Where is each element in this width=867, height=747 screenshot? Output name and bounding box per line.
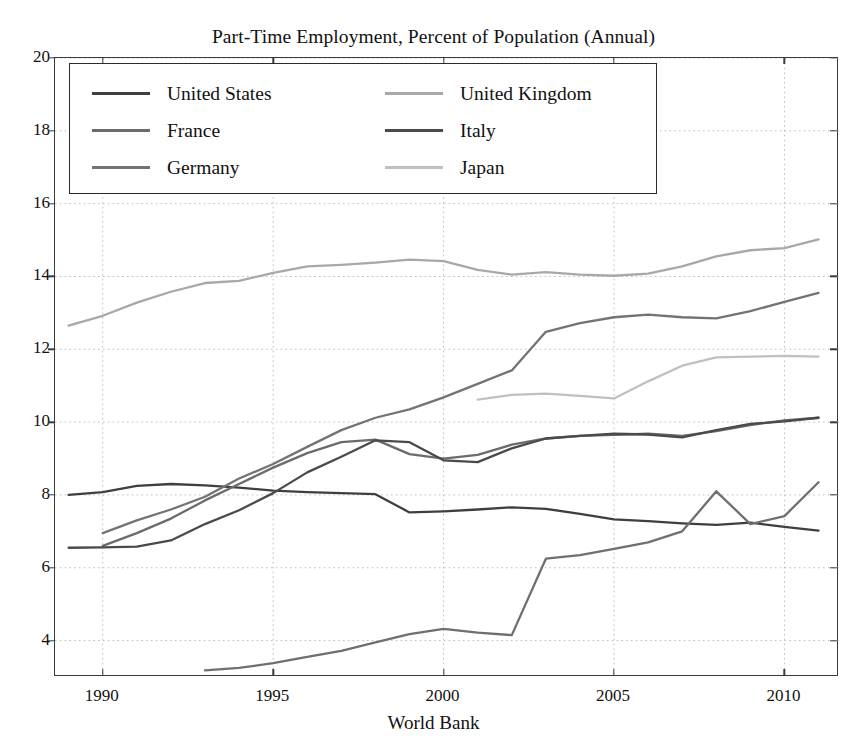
legend-swatch-icon (385, 92, 443, 95)
legend-swatch-icon (92, 166, 150, 169)
legend-entry-germany[interactable]: Germany (70, 157, 363, 179)
legend-swatch-icon (92, 92, 150, 95)
legend-label: Germany (167, 157, 240, 179)
y-axis-tick-labels: 468101214161820 (0, 0, 50, 747)
y-tick-mark (48, 130, 55, 131)
legend-label: United Kingdom (460, 83, 592, 105)
x-tick-label: 2000 (398, 686, 488, 706)
y-tick-mark (48, 57, 55, 58)
y-tick-label: 14 (6, 265, 50, 285)
y-tick-mark (48, 421, 55, 422)
y-tick-mark (48, 276, 55, 277)
legend-entry-france[interactable]: France (70, 120, 363, 142)
chart-title: Part-Time Employment, Percent of Populat… (0, 26, 867, 48)
y-tick-mark (48, 640, 55, 641)
y-tick-label: 8 (6, 484, 50, 504)
y-tick-mark (48, 567, 55, 568)
legend-entry-united-kingdom[interactable]: United Kingdom (363, 83, 656, 105)
legend-swatch-icon (385, 166, 443, 169)
chart-figure: Part-Time Employment, Percent of Populat… (0, 0, 867, 747)
x-tick-label: 1995 (227, 686, 317, 706)
y-tick-label: 10 (6, 411, 50, 431)
legend-entry-united-states[interactable]: United States (70, 83, 363, 105)
legend-grid: United StatesUnited KingdomFranceItalyGe… (70, 73, 656, 193)
legend-swatch-icon (385, 129, 443, 132)
y-tick-mark (48, 203, 55, 204)
y-tick-label: 4 (6, 630, 50, 650)
legend-label: United States (167, 83, 272, 105)
plot-area: United StatesUnited KingdomFranceItalyGe… (54, 57, 838, 676)
x-tick-label: 1990 (57, 686, 147, 706)
x-axis-title: World Bank (0, 712, 867, 734)
legend-label: Italy (460, 120, 496, 142)
y-tick-label: 20 (6, 47, 50, 67)
legend-label: Japan (460, 157, 504, 179)
legend-holder: United StatesUnited KingdomFranceItalyGe… (55, 58, 837, 675)
x-tick-label: 2010 (738, 686, 828, 706)
legend-swatch-icon (92, 129, 150, 132)
y-tick-mark (48, 494, 55, 495)
x-tick-label: 2005 (568, 686, 658, 706)
legend-label: France (167, 120, 220, 142)
legend-entry-italy[interactable]: Italy (363, 120, 656, 142)
y-tick-label: 16 (6, 193, 50, 213)
y-tick-label: 12 (6, 338, 50, 358)
y-tick-label: 18 (6, 120, 50, 140)
y-tick-label: 6 (6, 557, 50, 577)
chart-legend: United StatesUnited KingdomFranceItalyGe… (69, 63, 657, 194)
y-tick-mark (48, 349, 55, 350)
legend-entry-japan[interactable]: Japan (363, 157, 656, 179)
